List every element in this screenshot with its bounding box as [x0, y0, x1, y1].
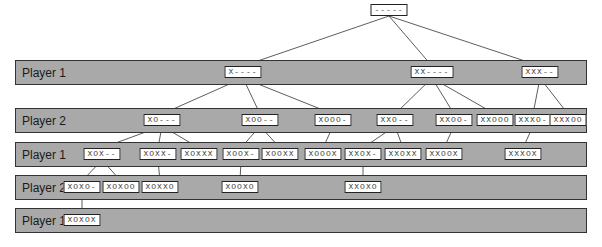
- tree-node: XXXOO: [549, 114, 586, 126]
- tree-node: XOXOO: [102, 181, 139, 193]
- tree-node: XXO--: [376, 114, 413, 126]
- band-label: Player 1: [22, 66, 66, 80]
- tree-node: XXX--: [521, 66, 558, 78]
- tree-node: XOXO-: [63, 181, 100, 193]
- tree-edge: [243, 16, 389, 66]
- band-label: Player 1: [22, 214, 66, 228]
- tree-node: XOOX-: [222, 148, 259, 160]
- tree-node: XX----: [411, 66, 454, 78]
- tree-node: XOOXO: [221, 181, 258, 193]
- band-label: Player 1: [22, 148, 66, 162]
- tree-node: XXXOX: [504, 148, 541, 160]
- tree-node: XXOOO: [476, 114, 513, 126]
- band-label: Player 2: [22, 181, 66, 195]
- tree-node: XOX--: [83, 148, 120, 160]
- tree-node: XOXXO: [141, 181, 178, 193]
- tree-node: -----: [370, 4, 407, 16]
- tree-node: XOOOX: [304, 148, 341, 160]
- tree-node: XXOO-: [435, 114, 472, 126]
- tree-node: XO---: [143, 114, 180, 126]
- tree-node: XOXX-: [139, 148, 176, 160]
- tree-node: XOOXX: [261, 148, 298, 160]
- tree-node: X----: [224, 66, 261, 78]
- tree-node: XXXO-: [514, 114, 551, 126]
- tree-edge: [389, 16, 540, 66]
- tree-node: XXOX-: [344, 148, 381, 160]
- band-label: Player 2: [22, 114, 66, 128]
- band-level-1: Player 1: [15, 60, 587, 85]
- tree-node: XXOXX: [384, 148, 421, 160]
- band-level-5: Player 1: [15, 208, 587, 233]
- tree-node: XOXXX: [180, 148, 217, 160]
- tree-node: XOXOX: [63, 214, 100, 226]
- band-level-4: Player 2: [15, 175, 587, 200]
- tree-node: XXOOX: [425, 148, 462, 160]
- tree-node: XXOXO: [344, 181, 381, 193]
- tree-node: XOO--: [241, 114, 278, 126]
- tree-node: XOOO-: [314, 114, 351, 126]
